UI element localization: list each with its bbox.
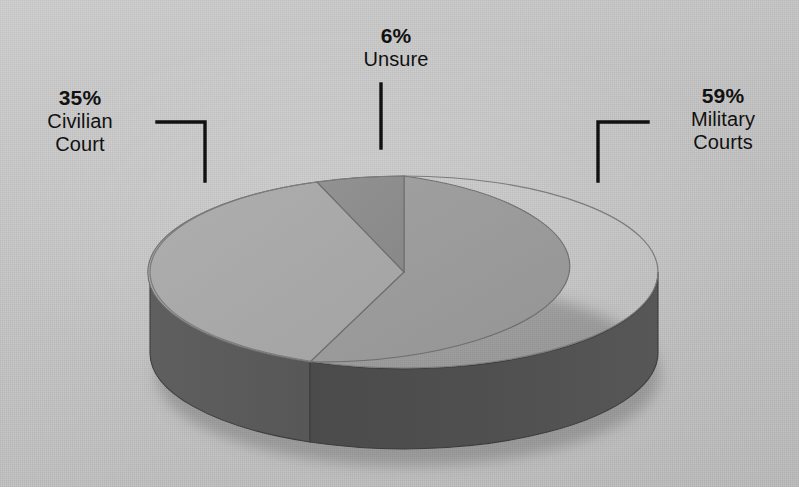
pie-label-civilian-court-line2: Court xyxy=(14,133,146,156)
pie-label-unsure-percent: 6% xyxy=(316,24,476,48)
pie-label-civilian-court: 35% Civilian Court xyxy=(14,86,146,156)
pie-label-military-courts: 59% Military Courts xyxy=(655,84,791,154)
pie-label-civilian-court-percent: 35% xyxy=(14,86,146,110)
pie-chart-figure: 35% Civilian Court 6% Unsure 59% Militar… xyxy=(0,0,799,487)
pie-label-military-courts-line2: Courts xyxy=(655,131,791,154)
pie-label-military-courts-line1: Military xyxy=(655,108,791,131)
pie-label-unsure-line1: Unsure xyxy=(316,48,476,71)
pie-chart-graphic xyxy=(0,0,799,487)
pie-label-unsure: 6% Unsure xyxy=(316,24,476,71)
pie-label-civilian-court-line1: Civilian xyxy=(14,110,146,133)
leader-line-military-courts xyxy=(598,122,648,181)
pie-label-military-courts-percent: 59% xyxy=(655,84,791,108)
leader-line-civilian-court xyxy=(157,122,205,181)
